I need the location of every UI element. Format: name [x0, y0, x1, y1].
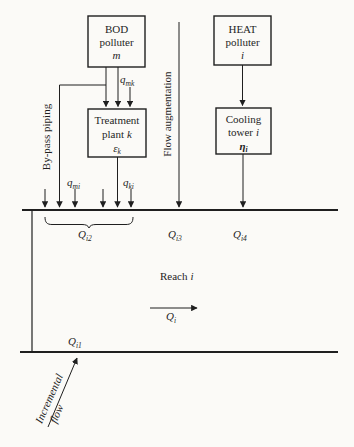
bod-title: BOD: [105, 23, 128, 35]
qi-label: Qi: [166, 310, 176, 325]
treatment-subtitle: plantk: [102, 128, 133, 140]
qmk-label: qmk: [120, 73, 135, 88]
qi3-label: Qi3: [168, 228, 182, 243]
qmi-label: qmi: [67, 176, 80, 191]
heat-title: HEAT: [228, 23, 256, 35]
heat-variable: i: [241, 49, 244, 61]
bod-subtitle: polluter: [99, 36, 134, 48]
cooling-subtitle: toweri: [228, 126, 259, 138]
treatment-efficiency-symbol: εk: [113, 142, 121, 157]
qi2-underbrace: [45, 217, 133, 228]
reach-label: Reachi: [160, 270, 194, 282]
heat-subtitle: polluter: [225, 36, 260, 48]
cooling-efficiency-symbol: ηi: [239, 140, 248, 155]
bod-variable: m: [113, 49, 121, 61]
qi1-label: Qi1: [68, 335, 82, 350]
cooling-title: Cooling: [226, 113, 262, 125]
qi2-label: Qi2: [78, 228, 92, 243]
qi4-label: Qi4: [233, 228, 247, 243]
flow-diagram: BOD polluter m HEAT polluter i Treatment…: [0, 0, 354, 447]
treatment-title: Treatment: [95, 114, 140, 126]
qki-label: qki: [123, 176, 134, 191]
incremental-flow-label: Incremental flow: [32, 372, 77, 431]
figure-canvas: BOD polluter m HEAT polluter i Treatment…: [0, 0, 354, 447]
flow-augmentation-label: Flow augmentation: [161, 71, 173, 157]
bypass-piping-label: By-pass piping: [40, 103, 52, 170]
